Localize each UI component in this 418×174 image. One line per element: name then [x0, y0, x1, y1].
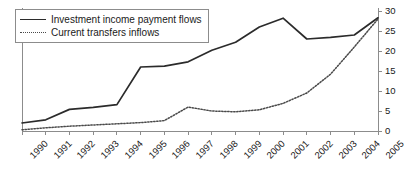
y-tick-label: 10 [385, 86, 396, 96]
y-tick-label: 30 [385, 6, 396, 16]
y-tick-label: 5 [385, 106, 390, 116]
y-tick-label: 0 [385, 126, 390, 136]
y-tick-label: 25 [385, 26, 396, 36]
solid-line-icon [20, 15, 46, 24]
legend-item: Current transfers inflows [20, 26, 202, 39]
chart-legend: Investment income payment flowsCurrent t… [15, 9, 209, 43]
line-chart: 051015202530 199019911992199319941995199… [0, 0, 418, 174]
legend-item-label: Investment income payment flows [51, 14, 202, 26]
y-tick-label: 15 [385, 66, 396, 76]
dotted-line-icon [20, 28, 46, 37]
y-tick-label: 20 [385, 46, 396, 56]
legend-item: Investment income payment flows [20, 13, 202, 26]
legend-item-label: Current transfers inflows [51, 27, 159, 39]
